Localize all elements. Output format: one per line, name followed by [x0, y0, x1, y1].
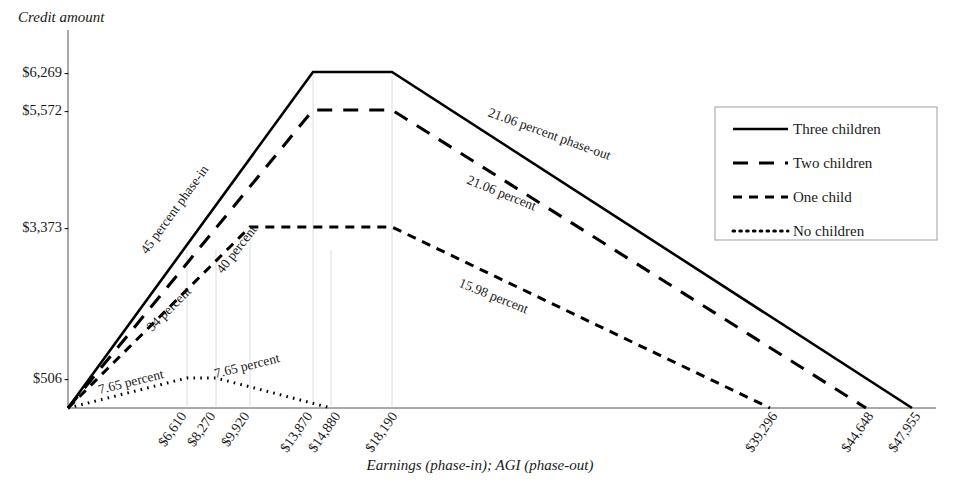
y-axis-title: Credit amount [18, 9, 105, 25]
x-tick-label-8: $47,955 [885, 409, 923, 455]
x-tick-label-1: $8,270 [184, 409, 218, 449]
y-tick-label-0: $6,269 [22, 64, 62, 80]
legend-label-three-children[interactable]: Three children [793, 121, 881, 137]
y-tick-dash-2: - [64, 219, 69, 235]
annotation-2106-percent: 21.06 percent [465, 172, 539, 214]
x-tick-label-2: $9,920 [218, 409, 252, 449]
x-axis-title: Earnings (phase-in); AGI (phase-out) [366, 457, 594, 474]
y-tick-dash-0: - [64, 64, 69, 80]
series-line-one-child [68, 227, 770, 408]
legend-label-two-children[interactable]: Two children [793, 155, 873, 171]
chart-canvas: Credit amount $6,269 - $5,572 - $3,373 -… [0, 0, 953, 485]
y-tick-dash-3: - [64, 370, 69, 386]
eitc-credit-chart: Credit amount $6,269 - $5,572 - $3,373 -… [0, 0, 953, 485]
x-tick-label-0: $6,610 [155, 409, 189, 449]
annotation-1598-percent: 15.98 percent [457, 275, 531, 317]
y-tick-label-2: $3,373 [22, 219, 62, 235]
y-tick-dash-1: - [64, 102, 69, 118]
x-tick-label-7: $44,648 [838, 409, 876, 455]
x-tick-label-5: $18,190 [362, 409, 400, 455]
annotation-2106-percent-phase-out: 21.06 percent phase-out [486, 105, 613, 163]
annotation-45-percent-phase-in: 45 percent phase-in [137, 162, 211, 257]
x-tick-label-6: $39,296 [742, 409, 780, 455]
y-tick-label-3: $506 [33, 370, 62, 386]
y-tick-label-1: $5,572 [22, 102, 62, 118]
legend-label-no-children[interactable]: No children [793, 223, 865, 239]
legend-label-one-child[interactable]: One child [793, 189, 852, 205]
annotation-40-percent: 40 percent [213, 222, 260, 276]
annotation-765-percent-phase-out: 7.65 percent [213, 350, 282, 381]
legend: Three children Two children One child No… [715, 107, 937, 240]
